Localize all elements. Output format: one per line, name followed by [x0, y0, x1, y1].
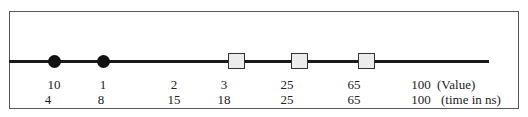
value-label: 2 — [171, 78, 178, 92]
time-label: 8 — [98, 93, 105, 107]
event-marker-circle-1 — [48, 55, 61, 68]
value-label: 25 — [281, 78, 294, 92]
value-label: 10 — [48, 78, 61, 92]
event-marker-square-3 — [358, 53, 375, 69]
value-row-legend: (Value) — [437, 78, 475, 92]
timeline-axis — [9, 60, 489, 63]
time-row-legend: (time in ns) — [441, 93, 501, 107]
time-label: 65 — [348, 93, 361, 107]
time-label: 100 — [411, 93, 431, 107]
value-label: 1 — [100, 78, 107, 92]
time-label: 15 — [168, 93, 181, 107]
time-label: 4 — [45, 93, 52, 107]
event-marker-circle-2 — [97, 55, 110, 68]
time-label: 25 — [281, 93, 294, 107]
event-marker-square-1 — [228, 53, 245, 69]
event-marker-square-2 — [291, 53, 308, 69]
value-label: 65 — [348, 78, 361, 92]
time-label: 18 — [218, 93, 231, 107]
value-label: 3 — [221, 78, 228, 92]
value-label: 100 — [411, 78, 431, 92]
